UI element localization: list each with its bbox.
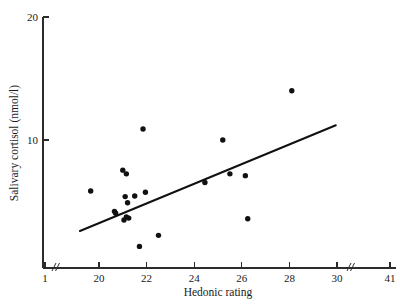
- y-tick-label: 20: [27, 11, 39, 23]
- axes: [43, 17, 396, 271]
- tick-labels: 1020120222426283041: [27, 11, 396, 284]
- x-tick-label: 20: [94, 272, 106, 284]
- data-point: [88, 188, 93, 193]
- data-point: [132, 193, 137, 198]
- regression-line: [80, 125, 336, 231]
- data-point: [143, 190, 148, 195]
- data-point: [126, 215, 131, 220]
- data-points: [88, 88, 295, 249]
- data-point: [202, 180, 207, 185]
- x-tick-label: 22: [141, 272, 152, 284]
- scatter-chart-figure: 1020120222426283041 Hedonic rating Saliv…: [0, 0, 400, 305]
- x-tick-label: 26: [236, 272, 248, 284]
- data-point: [124, 171, 129, 176]
- data-point: [227, 171, 232, 176]
- regression-line-path: [80, 125, 336, 231]
- axis-break-mark: [52, 263, 60, 271]
- axis-break-mark: [347, 263, 355, 271]
- data-point: [156, 233, 161, 238]
- x-tick-label: 1: [42, 272, 48, 284]
- x-tick-label: 30: [332, 272, 344, 284]
- y-axis-title: Salivary cortisol (nmol/l): [8, 85, 21, 201]
- x-axis-title: Hedonic rating: [184, 286, 253, 299]
- data-point: [137, 244, 142, 249]
- x-tick-label: 24: [189, 272, 201, 284]
- y-tick-label: 10: [27, 134, 39, 146]
- data-point: [289, 88, 294, 93]
- data-point: [243, 173, 248, 178]
- data-point: [220, 137, 225, 142]
- data-point: [245, 216, 250, 221]
- x-tick-label: 41: [385, 272, 396, 284]
- data-point: [113, 210, 118, 215]
- chart-canvas: 1020120222426283041 Hedonic rating Saliv…: [0, 0, 400, 305]
- data-point: [140, 126, 145, 131]
- data-point: [125, 200, 130, 205]
- data-point: [122, 194, 127, 199]
- x-tick-label: 28: [284, 272, 296, 284]
